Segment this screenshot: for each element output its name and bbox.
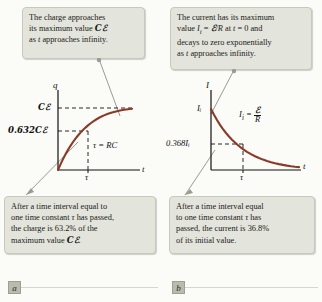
y-tick-0632ce: 0.632Cℰ (8, 125, 47, 135)
panel-label-b: b (172, 281, 185, 294)
callout-text: the charge is 63.2% of the (11, 224, 97, 233)
callout-text: After a time interval equal (176, 202, 264, 211)
y-axis-label-a: q (53, 80, 58, 90)
callout-line: passed, the current is 36.8% (176, 223, 309, 234)
callout-text: approaches infinity. (40, 35, 107, 44)
symbol-c-emf: Cℰ (95, 23, 107, 33)
callout-line: The current has its maximum (177, 12, 306, 23)
callout-text: The charge approaches (29, 13, 105, 22)
callout-text: = (202, 24, 211, 33)
callout-current-max: The current has its maximum value Ii = ℰ… (170, 7, 312, 70)
chart-current-vs-time: I t Iᵢ 0.368Iᵢ τ Ii = ℰR (161, 82, 322, 187)
callout-text: . (79, 236, 81, 245)
callout-line: as t approaches infinity. (29, 34, 139, 45)
panel-a: The charge approaches its maximum value … (0, 0, 161, 302)
panel-label-a: a (8, 281, 21, 294)
fraction-denominator: R (254, 116, 261, 125)
y-tick-ii: Iᵢ (197, 103, 201, 113)
y-tick-ce: Cℰ (38, 102, 50, 112)
callout-line: The charge approaches (29, 12, 139, 23)
callout-line: value Ii = ℰ/R at t = 0 and (177, 23, 306, 37)
callout-text: The current has its maximum (177, 13, 274, 22)
panel-rule-a (18, 287, 158, 288)
panel-rule-b (183, 287, 318, 288)
callout-line: decays to zero exponentially (177, 37, 306, 48)
callout-charge-approaches-max: The charge approaches its maximum value … (22, 7, 145, 59)
symbol-c-emf: Cℰ (67, 235, 79, 245)
x-axis-label-b: t (303, 161, 306, 171)
annotation-tau-equals-rc: τ = RC (93, 140, 117, 150)
callout-text: After a time interval equal to (11, 202, 107, 211)
panel-b: The current has its maximum value Ii = ℰ… (161, 0, 322, 302)
symbol-over-r: /R (216, 24, 223, 33)
callout-text: has (248, 213, 261, 222)
chart-charge-vs-time: q t Cℰ 0.632Cℰ τ τ = RC (0, 82, 161, 187)
callout-text: as (29, 35, 38, 44)
y-axis-label-b: I (206, 80, 209, 90)
callout-text: has passed, (75, 213, 114, 222)
callout-line: its maximum value Cℰ (29, 23, 139, 34)
callout-line: one time constant τ has passed, (11, 212, 150, 223)
annot-equals: = (246, 109, 252, 119)
callout-line: to one time constant τ has (176, 212, 309, 223)
y-tick-0368ii: 0.368Iᵢ (166, 138, 190, 148)
callout-text: decays to zero exponentially (177, 38, 272, 47)
callout-63-percent: After a time interval equal to one time … (4, 196, 156, 254)
callout-text: value (177, 24, 197, 33)
rc-circuit-figure: The charge approaches its maximum value … (0, 0, 322, 302)
x-tick-tau-a: τ (85, 172, 88, 182)
y-tick-0632ce-text: 0.632Cℰ (8, 125, 47, 135)
callout-line: After a time interval equal to (11, 201, 150, 212)
annot-i-sub: i (242, 114, 244, 122)
callout-text: as (177, 49, 186, 58)
x-axis-label-a: t (142, 164, 145, 174)
callout-text: maximum value (11, 236, 67, 245)
callout-text: approaches infinity. (188, 49, 255, 58)
callout-text: = 0 and (235, 24, 262, 33)
callout-text: of its initial value. (176, 236, 236, 245)
y-tick-ce-text: Cℰ (38, 102, 50, 112)
annotation-ii-equals-emf-over-r: Ii = ℰR (239, 106, 261, 124)
callout-line: the charge is 63.2% of the (11, 223, 150, 234)
callout-line: maximum value Cℰ. (11, 235, 150, 246)
callout-line: of its initial value. (176, 235, 309, 246)
fraction-emf-over-r: ℰR (254, 106, 261, 124)
callout-text: one time constant (11, 213, 72, 222)
callout-line: as t approaches infinity. (177, 48, 306, 59)
callout-text: at (223, 24, 233, 33)
x-tick-tau-b: τ (240, 172, 243, 182)
callout-text: passed, the current is 36.8% (176, 224, 269, 233)
callout-text: to one time constant (176, 213, 245, 222)
callout-text: its maximum value (29, 24, 95, 33)
callout-36-percent: After a time interval equal to one time … (169, 196, 315, 254)
callout-line: After a time interval equal (176, 201, 309, 212)
